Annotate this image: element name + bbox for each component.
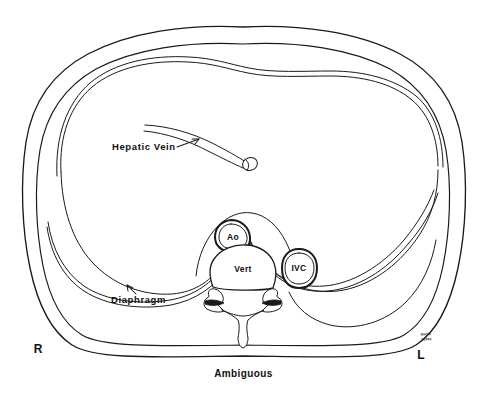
vertebra-label: Vert: [234, 264, 251, 274]
figure-caption: Ambiguous: [0, 368, 487, 379]
vertebra-spinous-process: [222, 310, 264, 348]
orientation-marker-right: R: [34, 342, 43, 356]
outer-body-wall-outline: [23, 26, 466, 357]
medical-illustration-figure: Ao Vert IVC Hepatic Vein Diaphragm R L M…: [0, 0, 487, 394]
mayo-credit-stamp: MAYO ©1984: [421, 331, 452, 347]
inner-body-wall-outline: [36, 43, 449, 345]
hepatic-vein-label: Hepatic Vein: [112, 141, 176, 152]
aorta-label: Ao: [227, 232, 239, 242]
anatomy-diagram: Ao Vert IVC Hepatic Vein Diaphragm R L: [0, 0, 487, 394]
hepatic-vein-confluence-bulb: [241, 156, 259, 173]
credit-line-2: ©1984: [421, 336, 451, 342]
diaphragm-label: Diaphragm: [111, 294, 166, 305]
ivc-label: IVC: [291, 263, 306, 273]
orientation-marker-left: L: [417, 348, 424, 362]
